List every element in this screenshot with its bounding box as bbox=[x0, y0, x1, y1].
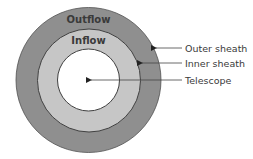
outer-sheath-callout: Outer sheath bbox=[185, 43, 247, 54]
inflow-label: Inflow bbox=[71, 35, 105, 46]
telescope-callout: Telescope bbox=[184, 75, 232, 86]
sheath-diagram: Outflow Inflow Outer sheath Inner sheath… bbox=[0, 0, 253, 159]
outflow-label: Outflow bbox=[67, 14, 111, 25]
inner-sheath-callout: Inner sheath bbox=[185, 58, 245, 69]
